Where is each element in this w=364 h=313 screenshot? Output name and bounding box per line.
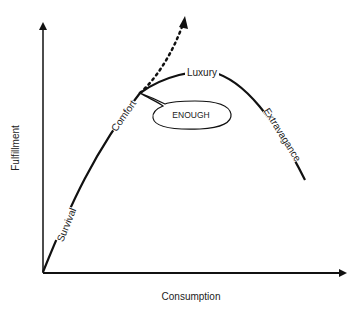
- enough-label: ENOUGH: [172, 110, 209, 120]
- luxury-label: Luxury: [187, 67, 217, 78]
- fulfillment-diagram: ENOUGH Survival Comfort Luxury Extravaga…: [0, 0, 364, 313]
- dotted-arrow-icon: [179, 16, 188, 29]
- dotted-projection: [140, 24, 183, 93]
- survival-label: Survival: [55, 206, 79, 243]
- comfort-label: Comfort: [109, 98, 139, 134]
- y-axis-label: Fulfillment: [10, 125, 21, 171]
- x-axis-label: Consumption: [162, 291, 221, 302]
- extravagance-label: Extravagance: [262, 106, 304, 164]
